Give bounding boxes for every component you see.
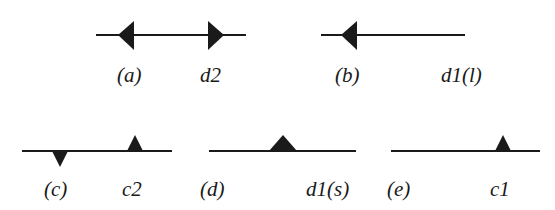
up-triangle-icon bbox=[495, 135, 511, 151]
panel-c: (c) c2 bbox=[22, 135, 172, 201]
right-arrowhead-icon bbox=[208, 21, 224, 50]
panel-a: (a) d2 bbox=[96, 21, 246, 87]
panel-e-tag: (e) bbox=[387, 177, 410, 201]
panel-c-name: c2 bbox=[122, 177, 142, 201]
panel-a-name: d2 bbox=[200, 63, 222, 87]
panel-b-tag: (b) bbox=[335, 63, 360, 87]
down-triangle-icon bbox=[52, 151, 68, 167]
panel-d-name: d1(s) bbox=[306, 177, 349, 201]
wide-up-triangle-icon bbox=[269, 135, 297, 151]
left-arrowhead-icon bbox=[118, 21, 134, 50]
panel-b-name: d1(l) bbox=[441, 63, 482, 87]
panel-a-tag: (a) bbox=[117, 63, 142, 87]
panel-e: (e) c1 bbox=[387, 135, 540, 201]
panel-d: (d) d1(s) bbox=[200, 135, 356, 201]
panel-c-tag: (c) bbox=[44, 177, 67, 201]
symbol-diagram: (a) d2 (b) d1(l) (c) c2 (d) d1(s) bbox=[0, 0, 555, 210]
up-triangle-icon bbox=[127, 135, 143, 151]
left-arrowhead-icon bbox=[341, 21, 357, 50]
panel-b: (b) d1(l) bbox=[321, 21, 482, 87]
panel-e-name: c1 bbox=[490, 177, 510, 201]
panel-d-tag: (d) bbox=[200, 177, 225, 201]
